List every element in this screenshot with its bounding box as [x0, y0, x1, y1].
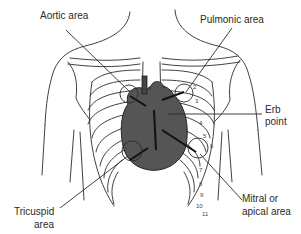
right-flank-line — [218, 130, 232, 200]
right-scapula — [214, 60, 240, 122]
erb-point-label-line1: Erb — [265, 104, 281, 115]
tricuspid-area-label-line1: Tricuspid — [14, 206, 54, 217]
heart — [121, 76, 196, 170]
rib-number: 7 — [199, 167, 203, 173]
left-scapula — [68, 62, 90, 120]
left-costal-margin — [90, 82, 114, 206]
rib-number: 8 — [199, 181, 203, 187]
rib-number: 3 — [195, 98, 199, 104]
aortic-area-label: Aortic area — [40, 10, 88, 21]
rib-number: 10 — [196, 203, 203, 209]
rib-number: 9 — [200, 192, 204, 198]
erb-point-label-line2: point — [265, 116, 287, 127]
left-neck-outline — [45, 12, 130, 125]
rib-number: 5 — [203, 133, 207, 139]
left-clavicle — [70, 58, 140, 60]
rib-number: 6 — [210, 143, 214, 149]
left-flank-line — [70, 130, 84, 200]
right-clavicle-lower — [162, 62, 240, 66]
tricuspid-area-label-line2: area — [34, 219, 54, 230]
right-clavicle — [162, 56, 238, 60]
aorta — [142, 76, 147, 94]
mitral-leader — [200, 154, 242, 200]
aortic-leader — [66, 30, 130, 92]
mitral-area-label-line1: Mitral or — [242, 193, 278, 204]
right-neck-outline — [175, 10, 258, 130]
left-arm-outline — [42, 125, 45, 175]
mitral-area-label-line2: apical area — [242, 206, 291, 217]
right-arm-outline — [258, 130, 262, 175]
rib-number: 11 — [202, 211, 209, 217]
pulmonic-area-label: Pulmonic area — [200, 14, 264, 25]
